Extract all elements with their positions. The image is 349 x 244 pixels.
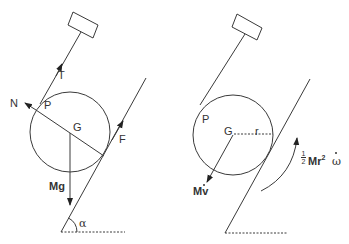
fraction-denominator: 2 — [302, 158, 306, 165]
incline-surface — [225, 79, 310, 233]
tension-label: T — [58, 70, 65, 81]
friction-label: F — [119, 134, 126, 145]
normal-force-arrow — [25, 103, 36, 110]
support-block — [68, 12, 98, 38]
contact-point-label: P — [202, 114, 209, 125]
normal-force-label: N — [10, 98, 18, 109]
center-label: G — [224, 126, 233, 137]
time-derivative-dot — [335, 152, 337, 154]
angle-arc — [69, 218, 78, 232]
rotational-inertia-body: Mr — [308, 155, 321, 167]
diagram-canvas — [0, 0, 349, 244]
radius-label: r — [255, 126, 259, 137]
time-derivative-dot — [203, 184, 205, 186]
rotational-inertia-exponent: 2 — [321, 154, 325, 161]
fraction-numerator: 1 — [302, 150, 306, 157]
rotational-inertia-label: Mr2 — [308, 154, 325, 167]
angular-acceleration-label: ω — [332, 156, 341, 167]
rotation-arrow — [261, 138, 297, 191]
string — [200, 34, 245, 105]
angle-label: α — [79, 218, 86, 229]
weight-label: Mg — [49, 181, 65, 192]
free-body-diagram — [25, 12, 146, 232]
center-label: G — [73, 122, 82, 133]
linear-inertia-label: Mv — [193, 186, 208, 197]
one-half-fraction: 1 2 — [301, 150, 306, 165]
contact-point-label: P — [44, 100, 51, 111]
support-block — [232, 14, 262, 40]
incline-surface — [61, 78, 146, 232]
kinetic-diagram — [193, 14, 310, 233]
